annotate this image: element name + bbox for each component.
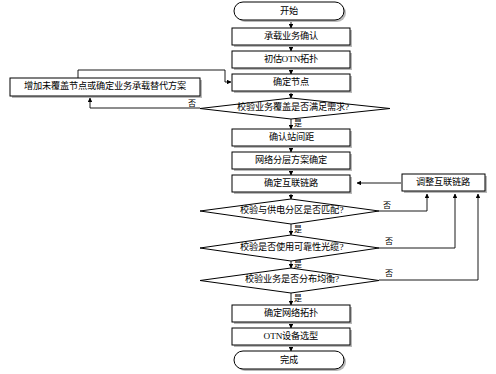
edge-label-check-fiber-yes: 是 [294, 260, 302, 269]
edge-label-check-balance-yes: 是 [294, 294, 302, 303]
edge-label-check-coverage-no: 否 [188, 99, 196, 108]
node-check-fiber[interactable]: 校验是否使用可靠性光缆? [200, 235, 379, 261]
node-check-power-label: 校验与供电分区是否匹配? [240, 204, 343, 215]
edge-label-check-coverage-yes: 是 [294, 119, 302, 128]
node-check-fiber-label: 校验是否使用可靠性光缆? [240, 241, 343, 252]
node-layer-plan-label: 网络分层方案确定 [255, 154, 327, 165]
edge-label-check-balance-no: 否 [385, 269, 393, 278]
node-estimate-topology[interactable]: 初估OTN拓扑 [232, 51, 352, 70]
edge-label-check-fiber-no: 否 [385, 237, 393, 246]
node-otn-selection[interactable]: OTN设备选型 [232, 328, 352, 347]
node-station-gap[interactable]: 确认站间距 [232, 129, 352, 148]
node-determine-topology-label: 确定网络拓扑 [264, 307, 318, 318]
node-confirm-service-label: 承载业务确认 [264, 30, 318, 41]
node-determine-topology[interactable]: 确定网络拓扑 [232, 305, 352, 324]
edge-label-check-power-yes: 是 [294, 225, 302, 234]
node-determine-nodes-label: 确定节点 [273, 76, 309, 87]
node-start[interactable]: 开始 [234, 2, 346, 22]
node-determine-links[interactable]: 确定互联链路 [232, 175, 352, 194]
node-alt-plan[interactable]: 增加未覆盖节点或确定业务承载替代方案 [10, 78, 202, 98]
node-check-power[interactable]: 校验与供电分区是否匹配? [200, 199, 379, 224]
node-finish[interactable]: 完成 [234, 351, 346, 371]
node-check-coverage-label: 校验业务覆盖是否满足需求? [237, 101, 349, 112]
node-check-balance-label: 校验业务是否分布均衡? [245, 273, 339, 284]
flowchart-canvas: 否 是 否 是 否 是 否 是 开始 承载业务确认 初估OTN拓扑 [0, 0, 496, 374]
flowchart-svg: 否 是 否 是 否 是 否 是 开始 承载业务确认 初估OTN拓扑 [0, 0, 496, 374]
node-adjust-links-label: 调整互联链路 [416, 176, 470, 187]
node-determine-nodes[interactable]: 确定节点 [232, 74, 352, 93]
node-check-coverage[interactable]: 校验业务覆盖是否满足需求? [200, 98, 390, 119]
node-check-balance[interactable]: 校验业务是否分布均衡? [200, 268, 379, 293]
edge-check-coverage-no-to-alt-plan [90, 98, 200, 108]
node-finish-label: 完成 [280, 354, 298, 365]
edge-check-balance-no-to-adjust-links [379, 194, 478, 280]
node-determine-links-label: 确定互联链路 [264, 177, 318, 188]
node-layer-plan[interactable]: 网络分层方案确定 [232, 152, 352, 171]
node-estimate-topology-label: 初估OTN拓扑 [264, 53, 319, 64]
node-alt-plan-label: 增加未覆盖节点或确定业务承载替代方案 [24, 80, 186, 91]
node-confirm-service[interactable]: 承载业务确认 [232, 28, 352, 47]
node-station-gap-label: 确认站间距 [269, 131, 314, 142]
edge-label-check-power-no: 否 [383, 201, 391, 210]
node-adjust-links[interactable]: 调整互联链路 [402, 174, 487, 193]
node-start-label: 开始 [280, 5, 298, 16]
node-otn-selection-label: OTN设备选型 [264, 330, 319, 341]
